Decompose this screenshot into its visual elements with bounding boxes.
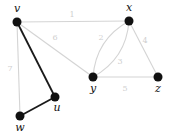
node-label-z: z bbox=[154, 82, 161, 95]
edge-v-x bbox=[17, 21, 129, 22]
node-w bbox=[16, 112, 25, 121]
nodes-group bbox=[13, 17, 163, 121]
edges-group bbox=[17, 21, 158, 116]
node-z bbox=[154, 73, 163, 82]
edge-x-y-left bbox=[93, 21, 129, 77]
edge-weight-x-z: 4 bbox=[142, 36, 147, 45]
edge-v-w bbox=[17, 22, 20, 116]
edge-v-y bbox=[17, 22, 93, 77]
edge-weight-v-x: 1 bbox=[69, 10, 74, 19]
edge-weight-y-z: 5 bbox=[122, 84, 127, 93]
node-x bbox=[125, 17, 134, 26]
node-label-w: w bbox=[15, 121, 25, 134]
node-label-x: x bbox=[126, 1, 133, 14]
edge-x-y-right bbox=[93, 21, 129, 77]
node-y bbox=[89, 73, 98, 82]
node-label-u: u bbox=[53, 101, 60, 114]
node-label-y: y bbox=[89, 82, 97, 95]
node-label-v: v bbox=[14, 2, 21, 15]
graph-canvas: 1672345 vxyzuw bbox=[0, 0, 176, 139]
edge-weight-x-y-left: 2 bbox=[98, 33, 103, 42]
edge-v-u bbox=[17, 22, 55, 97]
edge-x-z bbox=[129, 21, 158, 77]
edge-u-w bbox=[20, 97, 55, 116]
edge-weight-v-w: 7 bbox=[7, 64, 12, 73]
edge-weight-x-y-right: 3 bbox=[117, 57, 122, 66]
node-v bbox=[13, 18, 22, 27]
edge-weight-v-y: 6 bbox=[52, 33, 57, 42]
